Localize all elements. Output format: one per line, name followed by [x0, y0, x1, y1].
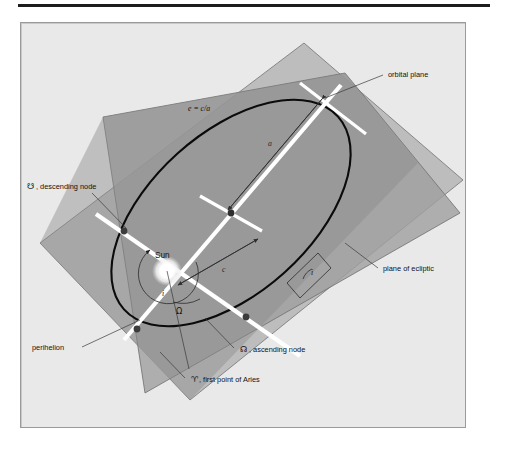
aries-label-group: ♈ , first point of Aries	[191, 374, 260, 384]
perihelion-dot	[134, 326, 141, 333]
eccentricity-formula-label: e = c/a	[188, 104, 210, 113]
inclination-label: i	[311, 268, 313, 277]
perihelion-label: perihelion	[32, 343, 64, 352]
aries-label: , first point of Aries	[199, 375, 260, 384]
ellipse-center-dot	[228, 210, 235, 217]
orbit-diagram-svg: orbital plane plane of ecliptic ☋ , desc…	[0, 0, 506, 449]
longitude-ascending-node-label: Ω	[176, 306, 182, 316]
semi-major-axis-label: a	[268, 139, 272, 148]
ascending-node-label: , ascending node	[249, 345, 305, 354]
descending-node-icon: ☋	[27, 181, 34, 191]
plane-of-ecliptic-label: plane of ecliptic	[383, 264, 434, 273]
sun-label: Sun	[155, 251, 170, 260]
orbital-plane-label: orbital plane	[388, 70, 428, 79]
descending-node-label-group: ☋ , descending node	[27, 181, 96, 191]
argument-angle-i-label: i	[162, 289, 164, 298]
descending-node-label: , descending node	[36, 182, 96, 191]
ascending-node-icon: ☊	[240, 344, 247, 354]
ascending-node-label-group: ☊ , ascending node	[240, 344, 305, 354]
focal-distance-label: c	[222, 265, 226, 274]
ascending-node-dot	[243, 314, 250, 321]
diagram-content: orbital plane plane of ecliptic ☋ , desc…	[27, 43, 463, 400]
figure-page: orbital plane plane of ecliptic ☋ , desc…	[0, 0, 506, 449]
aries-icon: ♈	[191, 374, 199, 384]
descending-node-dot	[121, 228, 128, 235]
